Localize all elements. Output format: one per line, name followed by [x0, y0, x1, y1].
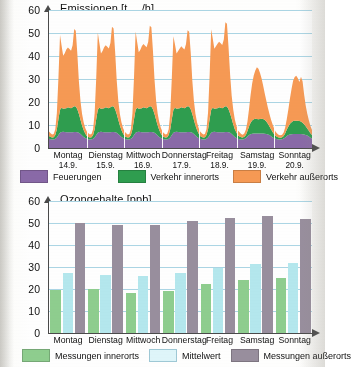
ozone-bar — [100, 275, 111, 333]
ozone-legend-item-messungen-ausserorts: Messungen außerorts — [231, 349, 351, 362]
ozone-plot-area — [49, 201, 312, 333]
emissions-legend: Feuerungen Verkehr innerorts Verkehr auß… — [20, 170, 338, 183]
emissions-chart-panel: Emissionen [tNOx/h] 60 50 40 30 20 10 0 … — [0, 0, 325, 185]
ozone-xlabel-mittwoch: Mittwoch — [124, 335, 162, 345]
ozone-bar — [50, 290, 61, 333]
emissions-ytick-30: 30 — [14, 73, 40, 85]
ozone-bar — [201, 284, 212, 334]
legend-swatch-verkehr-ausserorts — [233, 170, 261, 183]
legend-label-mittelwert: Mittelwert — [182, 351, 221, 361]
emissions-xlabel-freitag: Freitag 18.9. — [201, 150, 239, 170]
emissions-xlabel-sonntag: Sonntag 20.9. — [276, 150, 314, 170]
ozone-ytick-10: 10 — [14, 305, 40, 317]
ozone-xlabel-donnerstag: Donnerstag — [162, 335, 202, 345]
ozone-ytick-40: 40 — [14, 239, 40, 251]
ozone-bar — [300, 219, 311, 333]
emissions-xlabel-dienstag: Dienstag 15.9. — [87, 150, 125, 170]
ozone-ytick-60: 60 — [14, 195, 40, 207]
emissions-plot-area — [49, 10, 312, 148]
emissions-stacked-area-series — [49, 10, 312, 148]
legend-label-verkehr-ausserorts: Verkehr außerorts — [266, 172, 338, 182]
legend-label-messungen-innerorts: Messungen innerorts — [55, 351, 139, 361]
emissions-legend-item-verkehr-ausserorts: Verkehr außerorts — [233, 170, 338, 183]
ozone-bar — [288, 263, 299, 333]
ozone-legend-item-mittelwert: Mittelwert — [149, 349, 221, 362]
ozone-bar — [88, 289, 99, 333]
emissions-xlabel-day: Sonntag — [279, 150, 311, 160]
emissions-legend-item-feuerungen: Feuerungen — [20, 170, 102, 183]
emissions-day-separator — [237, 110, 238, 148]
legend-swatch-messungen-ausserorts — [231, 349, 259, 362]
ozone-bar — [112, 225, 123, 333]
emissions-ytick-50: 50 — [14, 27, 40, 39]
ozone-xaxis — [48, 333, 314, 334]
emissions-xlabel-montag: Montag 14.9. — [49, 150, 87, 170]
emissions-day-separator — [274, 110, 275, 148]
emissions-day-separator — [199, 110, 200, 148]
ozone-bar — [63, 273, 74, 334]
emissions-xlabel-day: Freitag — [206, 150, 233, 160]
ozone-ytick-50: 50 — [14, 217, 40, 229]
ozone-bar — [225, 218, 236, 334]
emissions-xlabel-date: 17.9. — [162, 160, 202, 170]
legend-swatch-feuerungen — [20, 170, 48, 183]
emissions-xlabel-date: 18.9. — [201, 160, 239, 170]
emissions-ytick-0: 0 — [14, 142, 40, 154]
ozone-bar — [238, 280, 249, 333]
ozone-xlabel-dienstag: Dienstag — [87, 335, 125, 345]
ozone-xlabel-sonntag: Sonntag — [276, 335, 314, 345]
emissions-xaxis — [48, 148, 314, 149]
emissions-xlabel-day: Dienstag — [88, 150, 122, 160]
ozone-bar — [250, 264, 261, 333]
ozone-xlabel-montag: Montag — [49, 335, 87, 345]
emissions-xlabel-day: Samstag — [240, 150, 274, 160]
ozone-bar — [213, 268, 224, 333]
ozone-chart-panel: Ozongehalte [ppb] 60 50 40 30 20 10 0 Mo… — [0, 185, 325, 367]
legend-label-feuerungen: Feuerungen — [53, 172, 102, 182]
legend-swatch-mittelwert — [149, 349, 177, 362]
ozone-bar — [163, 291, 174, 333]
emissions-xlabel-day: Mittwoch — [126, 150, 160, 160]
emissions-day-separator — [87, 110, 88, 148]
ozone-bar — [75, 223, 86, 333]
emissions-xlabel-date: 16.9. — [124, 160, 162, 170]
ozone-xlabel-samstag: Samstag — [238, 335, 276, 345]
ozone-bar — [187, 221, 198, 333]
ozone-bar — [262, 216, 273, 333]
legend-label-verkehr-innerorts: Verkehr innerorts — [151, 172, 220, 182]
emissions-xlabel-day: Montag — [54, 150, 83, 160]
emissions-ytick-10: 10 — [14, 119, 40, 131]
emissions-legend-item-verkehr-innerorts: Verkehr innerorts — [118, 170, 220, 183]
emissions-day-separator — [162, 110, 163, 148]
ozone-ytick-0: 0 — [14, 327, 40, 339]
emissions-xlabel-date: 15.9. — [87, 160, 125, 170]
ozone-xlabel-freitag: Freitag — [201, 335, 239, 345]
legend-swatch-messungen-innerorts — [22, 349, 50, 362]
ozone-bar — [150, 225, 161, 333]
ozone-legend-item-messungen-innerorts: Messungen innerorts — [22, 349, 139, 362]
emissions-xlabel-date: 20.9. — [276, 160, 314, 170]
ozone-ytick-30: 30 — [14, 261, 40, 273]
ozone-legend: Messungen innerorts Mittelwert Messungen… — [22, 349, 351, 362]
emissions-day-separator — [124, 110, 125, 148]
ozone-bar — [175, 273, 186, 334]
emissions-xlabel-date: 19.9. — [238, 160, 276, 170]
emissions-ytick-40: 40 — [14, 50, 40, 62]
legend-label-messungen-ausserorts: Messungen außerorts — [264, 351, 351, 361]
emissions-ytick-20: 20 — [14, 96, 40, 108]
ozone-bar — [126, 293, 137, 333]
emissions-xlabel-samstag: Samstag 19.9. — [238, 150, 276, 170]
legend-swatch-verkehr-innerorts — [118, 170, 146, 183]
ozone-bar — [276, 278, 287, 333]
ozone-ytick-20: 20 — [14, 283, 40, 295]
emissions-xlabel-mittwoch: Mittwoch 16.9. — [124, 150, 162, 170]
emissions-ytick-60: 60 — [14, 4, 40, 16]
ozone-bar — [138, 276, 149, 333]
emissions-xlabel-donnerstag: Donnerstag 17.9. — [162, 150, 202, 170]
emissions-xlabel-date: 14.9. — [49, 160, 87, 170]
